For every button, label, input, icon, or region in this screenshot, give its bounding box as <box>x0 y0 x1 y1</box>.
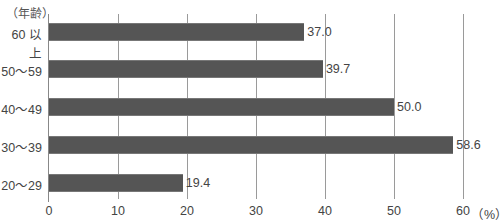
x-axis-unit-label: （%） <box>471 204 504 223</box>
category-label: 30～39 <box>0 137 42 156</box>
x-tick: 0 <box>46 204 53 218</box>
value-label: 19.4 <box>186 176 210 190</box>
x-tick: 30 <box>249 204 263 218</box>
x-tick: 40 <box>318 204 332 218</box>
bar <box>49 136 453 154</box>
x-tick: 10 <box>111 204 125 218</box>
bar <box>49 60 323 78</box>
gridline-60 <box>463 14 464 199</box>
category-label: 50～59 <box>0 61 42 80</box>
x-tick: 20 <box>180 204 194 218</box>
bar <box>49 174 183 192</box>
y-axis-unit-label: （年齢） <box>6 4 54 21</box>
value-label: 37.0 <box>307 25 331 39</box>
value-label: 58.6 <box>456 138 480 152</box>
x-tick: 60 <box>456 204 470 218</box>
category-label: 60 以上 <box>0 24 42 62</box>
category-label: 20～29 <box>0 175 42 194</box>
value-label: 39.7 <box>326 62 350 76</box>
category-label: 40～49 <box>0 99 42 118</box>
bar <box>49 98 394 116</box>
x-tick: 50 <box>387 204 401 218</box>
gridline-50 <box>394 14 395 199</box>
value-label: 50.0 <box>397 100 421 114</box>
bar <box>49 23 304 41</box>
